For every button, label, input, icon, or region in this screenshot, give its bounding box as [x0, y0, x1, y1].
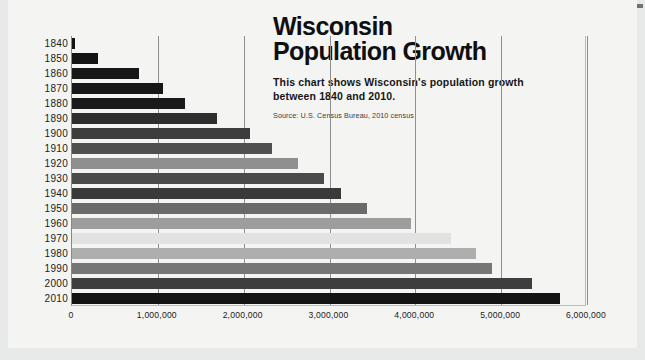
bar-1880	[72, 98, 185, 110]
bar-rows	[72, 36, 585, 305]
bar-row	[72, 186, 585, 201]
bar-row	[72, 96, 585, 111]
y-axis-label-2000: 2000	[30, 276, 68, 291]
y-axis-label-1910: 1910	[30, 141, 68, 156]
bar-1940	[72, 188, 341, 200]
bar-row	[72, 51, 585, 66]
bar-row	[72, 156, 585, 171]
chart-plot-area: 1840185018601870188018901900191019201930…	[30, 36, 586, 306]
bar-row	[72, 201, 585, 216]
bar-row	[72, 246, 585, 261]
bar-2000	[72, 278, 532, 290]
x-axis-label-0: 0	[69, 310, 74, 320]
y-axis-label-1900: 1900	[30, 126, 68, 141]
bar-row	[72, 66, 585, 81]
bar-1840	[72, 38, 75, 50]
bar-1920	[72, 158, 298, 170]
bar-row	[72, 36, 585, 51]
x-axis-label-4000000: 4,000,000	[394, 310, 434, 320]
bar-row	[72, 276, 585, 291]
x-axis-label-3000000: 3,000,000	[308, 310, 348, 320]
y-axis-label-1920: 1920	[30, 156, 68, 171]
bar-1970	[72, 233, 451, 245]
bar-row	[72, 111, 585, 126]
chart-card: Wisconsin Population Growth This chart s…	[8, 0, 637, 348]
bar-2010	[72, 293, 560, 305]
bar-row	[72, 141, 585, 156]
y-axis-label-1960: 1960	[30, 216, 68, 231]
y-axis-label-1950: 1950	[30, 201, 68, 216]
y-axis-label-1850: 1850	[30, 51, 68, 66]
bar-1980	[72, 248, 476, 260]
bar-1910	[72, 143, 272, 155]
bar-1960	[72, 218, 411, 230]
gridline-6000000	[587, 36, 588, 305]
x-axis-label-2000000: 2,000,000	[223, 310, 263, 320]
y-axis-label-1890: 1890	[30, 111, 68, 126]
bar-1900	[72, 128, 250, 140]
bar-row	[72, 216, 585, 231]
bar-1870	[72, 83, 163, 95]
bar-1990	[72, 263, 492, 275]
bar-row	[72, 126, 585, 141]
bar-row	[72, 171, 585, 186]
y-axis-label-1980: 1980	[30, 246, 68, 261]
bar-1950	[72, 203, 367, 215]
y-axis-label-1860: 1860	[30, 66, 68, 81]
bar-1860	[72, 68, 139, 80]
y-axis-label-1940: 1940	[30, 186, 68, 201]
y-axis-label-1930: 1930	[30, 171, 68, 186]
bar-row	[72, 81, 585, 96]
bar-1930	[72, 173, 324, 185]
bar-1850	[72, 53, 98, 65]
bar-row	[72, 291, 585, 306]
bar-1890	[72, 113, 217, 125]
y-axis-label-1970: 1970	[30, 231, 68, 246]
y-axis-label-1990: 1990	[30, 261, 68, 276]
x-axis-label-5000000: 5,000,000	[480, 310, 520, 320]
bar-row	[72, 231, 585, 246]
plot-frame	[71, 36, 586, 306]
x-axis-label-6000000: 6,000,000	[566, 310, 606, 320]
y-axis-label-2010: 2010	[30, 291, 68, 306]
y-axis-label-1840: 1840	[30, 36, 68, 51]
x-axis-label-1000000: 1,000,000	[137, 310, 177, 320]
y-axis-label-1880: 1880	[30, 96, 68, 111]
bar-row	[72, 261, 585, 276]
y-axis-label-1870: 1870	[30, 81, 68, 96]
